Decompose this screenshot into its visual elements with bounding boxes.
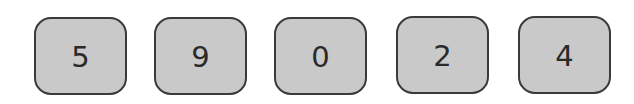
digit-value: 4 xyxy=(555,42,573,71)
digit-value: 2 xyxy=(433,42,451,71)
digit-value: 5 xyxy=(71,43,89,72)
digit-card-1[interactable]: 5 xyxy=(34,17,127,95)
digit-card-3[interactable]: 0 xyxy=(274,17,367,95)
digit-value: 0 xyxy=(311,43,329,72)
digit-card-4[interactable]: 2 xyxy=(396,16,489,94)
digit-value: 9 xyxy=(191,43,209,72)
digit-card-2[interactable]: 9 xyxy=(154,17,247,95)
digit-card-5[interactable]: 4 xyxy=(518,16,611,94)
